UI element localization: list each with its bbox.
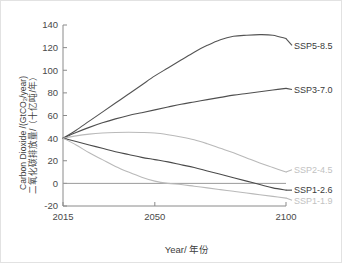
x-axis-title: Year/ 年份 xyxy=(165,244,209,255)
series-line-ssp1-2.6 xyxy=(63,138,286,190)
x-tick-label: 2050 xyxy=(144,211,165,222)
series-leader-ssp3-7.0 xyxy=(286,88,292,89)
x-axis-ticks: 201520502100 xyxy=(52,202,296,222)
y-tick-label: -20 xyxy=(44,200,58,211)
series-label-ssp1-1.9: SSP1-1.9 xyxy=(294,196,333,206)
series-label-ssp5-8.5: SSP5-8.5 xyxy=(294,41,333,51)
series-paths xyxy=(63,35,286,198)
y-tick-label: 140 xyxy=(42,19,58,30)
series-label-ssp1-2.6: SSP1-2.6 xyxy=(294,185,333,195)
series-label-ssp2-4.5: SSP2-4.5 xyxy=(294,165,333,175)
y-tick-label: 120 xyxy=(42,42,58,53)
chart-figure: Carbon Dioxide /(GtCO₂/year) 二氧化碳排放量/（十亿… xyxy=(0,0,342,263)
emissions-line-chart: Carbon Dioxide /(GtCO₂/year) 二氧化碳排放量/（十亿… xyxy=(1,1,342,263)
series-labels: SSP5-8.5SSP3-7.0SSP2-4.5SSP1-2.6SSP1-1.9 xyxy=(286,39,333,206)
series-line-ssp3-7.0 xyxy=(63,88,286,138)
y-tick-label: 40 xyxy=(47,133,58,144)
y-tick-label: 60 xyxy=(47,110,58,121)
y-tick-label: 80 xyxy=(47,87,58,98)
series-line-ssp5-8.5 xyxy=(63,35,286,139)
series-label-ssp3-7.0: SSP3-7.0 xyxy=(294,85,333,95)
series-leader-ssp2-4.5 xyxy=(286,170,292,172)
series-line-ssp2-4.5 xyxy=(63,132,286,172)
y-axis-title-zh: 二氧化碳排放量/（十亿吨/年） xyxy=(27,72,38,194)
y-tick-label: 0 xyxy=(53,178,58,189)
y-tick-label: 100 xyxy=(42,65,58,76)
y-tick-label: 20 xyxy=(47,155,58,166)
series-leader-ssp5-8.5 xyxy=(286,39,292,46)
x-tick-label: 2100 xyxy=(275,211,296,222)
x-tick-label: 2015 xyxy=(52,211,73,222)
y-axis-title-en: Carbon Dioxide /(GtCO₂/year) xyxy=(18,76,28,190)
y-axis-title: Carbon Dioxide /(GtCO₂/year) 二氧化碳排放量/（十亿… xyxy=(18,72,38,194)
series-leader-ssp1-1.9 xyxy=(286,198,292,200)
